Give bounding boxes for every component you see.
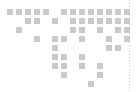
map-dot (52, 36, 58, 42)
map-dot (88, 18, 94, 24)
map-dot (34, 9, 40, 15)
map-dot (7, 9, 13, 15)
map-dot (61, 9, 67, 15)
map-dot (97, 27, 103, 33)
map-dot (70, 18, 76, 24)
map-dot (52, 18, 58, 24)
map-dot (61, 72, 67, 78)
map-dot (52, 63, 58, 69)
map-dot (61, 36, 67, 42)
map-dot (25, 18, 31, 24)
map-dot (115, 27, 121, 33)
map-dot (97, 9, 103, 15)
map-dot (106, 36, 112, 42)
map-dot (52, 54, 58, 60)
map-dot (79, 9, 85, 15)
map-dot (34, 36, 40, 42)
map-dot (106, 18, 112, 24)
map-dot (61, 54, 67, 60)
map-dot (34, 18, 40, 24)
map-dot-grid (0, 0, 136, 92)
map-dot (25, 9, 31, 15)
map-dot (79, 27, 85, 33)
right-dotted-axis-line (129, 0, 130, 92)
map-dot (16, 9, 22, 15)
map-dot (70, 27, 76, 33)
map-dot (115, 18, 121, 24)
map-dot (79, 54, 85, 60)
map-dot (79, 36, 85, 42)
map-dot (88, 9, 94, 15)
map-dot (88, 81, 94, 87)
map-dot (52, 45, 58, 51)
map-dot (106, 9, 112, 15)
map-dot (97, 18, 103, 24)
map-dot (97, 72, 103, 78)
map-dot (79, 63, 85, 69)
map-dot (106, 45, 112, 51)
map-dot (79, 18, 85, 24)
map-dot (115, 9, 121, 15)
map-dot (97, 63, 103, 69)
map-dot (70, 9, 76, 15)
map-dot (115, 45, 121, 51)
map-dot (43, 9, 49, 15)
map-dot (61, 63, 67, 69)
dot-matrix-world-map-widget: World Map (0, 0, 136, 92)
map-dot (16, 27, 22, 33)
